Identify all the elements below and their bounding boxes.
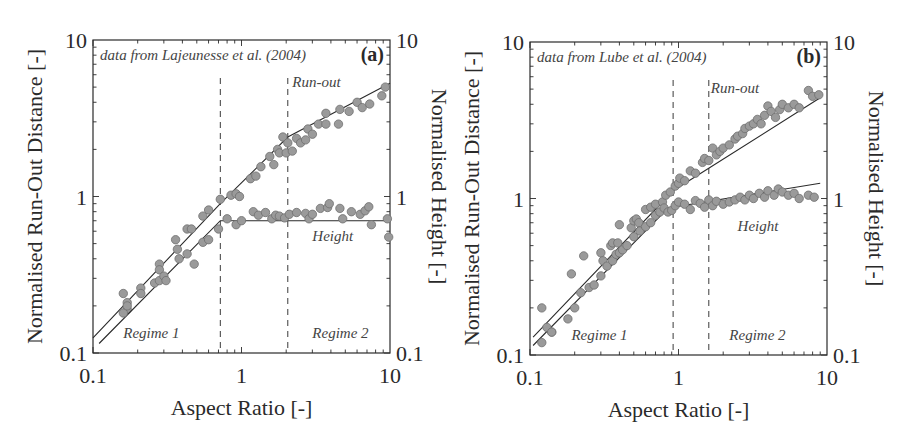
data-point bbox=[383, 215, 391, 223]
y-right-tick-label: 0.1 bbox=[833, 343, 861, 368]
annotation-label: Regime 1 bbox=[570, 327, 627, 343]
data-point bbox=[381, 83, 389, 91]
panel-label: (a) bbox=[361, 43, 384, 66]
data-point bbox=[266, 152, 274, 160]
data-point bbox=[270, 160, 278, 168]
y-right-axis-title: Normalised Height [-] bbox=[864, 91, 889, 287]
data-point bbox=[691, 169, 699, 177]
chart-panel-a: 0.11100.11100.1110Aspect Ratio [-]Normal… bbox=[0, 0, 457, 440]
data-point bbox=[757, 120, 765, 128]
data-point bbox=[257, 163, 265, 171]
y-right-tick-label: 10 bbox=[833, 30, 855, 55]
data-point bbox=[183, 250, 191, 258]
data-point bbox=[119, 289, 127, 297]
data-point bbox=[538, 338, 546, 346]
data-point bbox=[284, 139, 292, 147]
data-point bbox=[680, 177, 688, 185]
y-left-tick-label: 10 bbox=[502, 30, 524, 55]
data-point bbox=[345, 107, 353, 115]
data-point bbox=[590, 281, 598, 289]
data-point bbox=[216, 195, 224, 203]
series-run-out bbox=[93, 83, 390, 338]
data-point bbox=[334, 120, 342, 128]
y-right-tick-label: 1 bbox=[396, 185, 407, 210]
y-right-tick-label: 10 bbox=[396, 28, 418, 53]
data-point bbox=[187, 225, 195, 233]
data-point bbox=[358, 103, 366, 111]
series-height bbox=[99, 200, 393, 344]
chart-a-svg: 0.11100.11100.1110Aspect Ratio [-]Normal… bbox=[0, 0, 457, 440]
data-point bbox=[538, 304, 546, 312]
data-point bbox=[162, 276, 170, 284]
data-point bbox=[367, 221, 375, 229]
data-point bbox=[308, 210, 316, 218]
y-left-tick-label: 0.1 bbox=[497, 343, 525, 368]
data-point bbox=[137, 289, 145, 297]
annotation-label: Regime 2 bbox=[728, 327, 786, 343]
data-point bbox=[623, 241, 631, 249]
data-point bbox=[261, 208, 269, 216]
data-point bbox=[336, 204, 344, 212]
annotation-label: Run-out bbox=[291, 74, 341, 90]
data-point bbox=[308, 130, 316, 138]
y-left-axis-title: Normalised Run-Out Distance [-] bbox=[459, 51, 484, 346]
y-left-tick-label: 10 bbox=[65, 28, 87, 53]
data-point bbox=[366, 100, 374, 108]
data-point bbox=[123, 302, 131, 310]
annotation-label: Run-out bbox=[710, 80, 760, 96]
chart-panel-b: 0.11100.11100.1110Aspect Ratio [-]Normal… bbox=[457, 0, 914, 440]
data-point bbox=[214, 225, 222, 233]
annotation-label: Height bbox=[311, 228, 354, 244]
data-point bbox=[795, 104, 803, 112]
data-point bbox=[336, 105, 344, 113]
data-point bbox=[810, 193, 818, 201]
y-left-tick-label: 1 bbox=[513, 187, 524, 212]
data-point bbox=[175, 255, 183, 263]
data-point bbox=[339, 215, 347, 223]
data-point bbox=[235, 192, 243, 200]
data-point bbox=[580, 252, 588, 260]
data-point bbox=[615, 221, 623, 229]
data-point bbox=[567, 270, 575, 278]
annotation-label: Regime 2 bbox=[311, 325, 369, 341]
data-point bbox=[385, 233, 393, 241]
y-left-tick-label: 1 bbox=[76, 185, 87, 210]
data-point bbox=[190, 260, 198, 268]
source-note: data from Lajeunesse et al. (2004) bbox=[100, 47, 306, 64]
data-point bbox=[322, 120, 330, 128]
data-point bbox=[705, 156, 713, 164]
x-axis-title: Aspect Ratio [-] bbox=[171, 395, 313, 420]
y-left-axis-title: Normalised Run-Out Distance [-] bbox=[22, 49, 47, 344]
data-point bbox=[322, 109, 330, 117]
x-axis-title: Aspect Ratio [-] bbox=[608, 397, 750, 422]
data-point bbox=[288, 147, 296, 155]
data-point bbox=[325, 200, 333, 208]
data-point bbox=[771, 113, 779, 121]
data-point bbox=[597, 272, 605, 280]
data-point bbox=[571, 304, 579, 312]
annotation-label: Height bbox=[737, 218, 780, 234]
x-tick-label: 10 bbox=[379, 363, 401, 388]
x-tick-label: 1 bbox=[673, 365, 684, 390]
y-left-tick-label: 0.1 bbox=[60, 341, 88, 366]
series-height bbox=[533, 183, 820, 346]
data-point bbox=[597, 249, 605, 257]
data-point bbox=[223, 215, 231, 223]
x-tick-label: 0.1 bbox=[516, 365, 544, 390]
x-tick-label: 0.1 bbox=[79, 363, 107, 388]
data-point bbox=[173, 245, 181, 253]
data-point bbox=[548, 328, 556, 336]
data-point bbox=[347, 208, 355, 216]
series-run-out bbox=[533, 86, 823, 337]
data-point bbox=[237, 217, 245, 225]
y-right-tick-label: 1 bbox=[833, 187, 844, 212]
fit-line bbox=[93, 83, 390, 338]
data-point bbox=[252, 172, 260, 180]
data-point bbox=[577, 289, 585, 297]
y-right-tick-label: 0.1 bbox=[396, 341, 424, 366]
panel-label: (b) bbox=[797, 45, 821, 68]
data-point bbox=[292, 208, 300, 216]
data-point bbox=[378, 92, 386, 100]
data-point bbox=[171, 236, 179, 244]
data-point bbox=[686, 205, 694, 213]
